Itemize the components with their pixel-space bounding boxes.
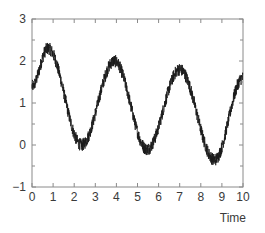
plot-area: [32, 19, 243, 187]
y-tick-label: 1: [19, 96, 26, 110]
y-tick-label: −1: [12, 180, 26, 194]
x-axis-label: Time: [220, 211, 247, 225]
y-tick-label: 3: [19, 12, 26, 26]
x-tick-label: 2: [71, 190, 78, 204]
x-tick-label: 5: [134, 190, 141, 204]
x-tick-label: 10: [236, 190, 250, 204]
x-tick-label: 9: [219, 190, 226, 204]
x-tick-label: 3: [92, 190, 99, 204]
x-tick-label: 8: [197, 190, 204, 204]
x-tick-label: 0: [29, 190, 36, 204]
x-tick-label: 4: [113, 190, 120, 204]
series-line: [32, 43, 243, 165]
y-tick-label: 0: [19, 138, 26, 152]
time-series-chart: 012345678910−10123 Time: [0, 0, 265, 233]
x-tick-label: 6: [155, 190, 162, 204]
x-tick-label: 7: [176, 190, 183, 204]
x-tick-label: 1: [50, 190, 57, 204]
y-tick-label: 2: [19, 54, 26, 68]
